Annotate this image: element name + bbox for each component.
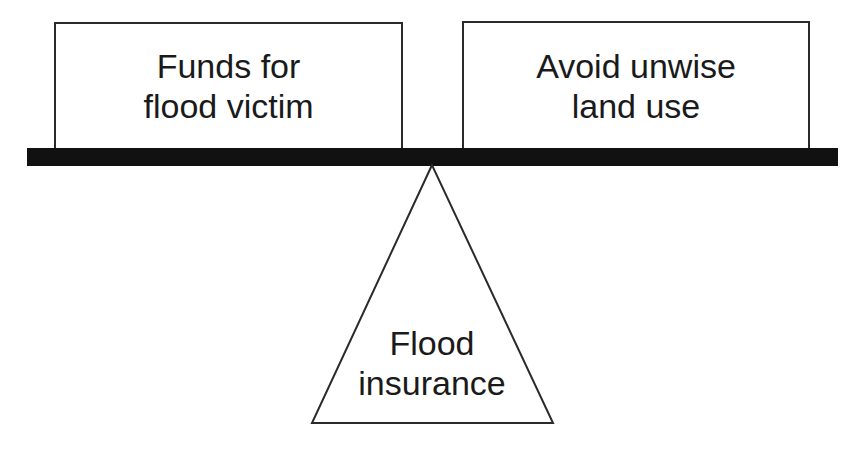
fulcrum-line-2: insurance: [332, 363, 532, 403]
fulcrum-line-1: Flood: [332, 323, 532, 363]
